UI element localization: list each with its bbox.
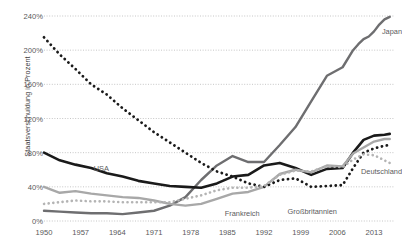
x-axis-tick-label: 1957 (72, 228, 89, 237)
x-axis-tick-label: 2013 (366, 228, 383, 237)
series-label-frankreich: Frankreich (225, 209, 260, 218)
series-label-deutschland: Deutschland (361, 167, 402, 176)
x-axis-tick-label: 2006 (329, 228, 346, 237)
x-axis-tick-label: 1999 (292, 228, 309, 237)
x-axis-tick-label: 1992 (256, 228, 273, 237)
x-axis-tick-label: 1971 (146, 228, 163, 237)
x-axis-tick-label: 1964 (109, 228, 126, 237)
x-axis-tick-label: 1950 (36, 228, 53, 237)
x-axis-tick-label: 1978 (182, 228, 199, 237)
series-label-japan: Japan (382, 27, 402, 36)
series-label-usa: USA (94, 164, 109, 173)
series-line-deutschland (44, 154, 390, 204)
x-axis-tick-label: 1985 (219, 228, 236, 237)
series-label-grobritannien: Großbritannien (288, 207, 337, 216)
series-line-usa (44, 134, 390, 188)
